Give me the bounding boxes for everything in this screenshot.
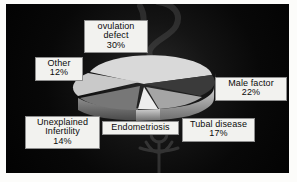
label-value: 12%	[39, 68, 79, 77]
label-value: 14%	[29, 137, 96, 146]
label-unexplained-infertility[interactable]: Unexplained Infertility 14%	[25, 116, 100, 149]
label-tubal-disease[interactable]: Tubal disease 17%	[182, 118, 255, 142]
label-endometriosis[interactable]: Endometriosis	[102, 121, 179, 135]
label-line1: Endometriosis	[106, 123, 175, 132]
presentation-slide: ovulation defect 30% Other 12% Male fact…	[6, 4, 289, 173]
label-ovulation-defect[interactable]: ovulation defect 30%	[84, 20, 148, 53]
label-value: 30%	[88, 41, 144, 50]
label-other[interactable]: Other 12%	[35, 57, 83, 81]
label-value: 17%	[186, 129, 251, 138]
label-value: 22%	[219, 88, 283, 97]
pie-slice-side-endometriosis	[136, 109, 160, 121]
label-male-factor[interactable]: Male factor 22%	[215, 77, 287, 101]
slide-image: ovulation defect 30% Other 12% Male fact…	[0, 0, 297, 182]
